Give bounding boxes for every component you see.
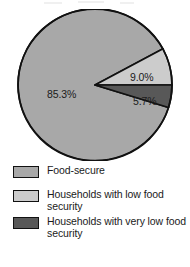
legend-swatch-low-security xyxy=(13,190,39,202)
pie-label-food-secure: 85.3% xyxy=(47,88,76,100)
legend-label-very-low-security: Households with very low food security xyxy=(47,216,190,239)
legend-item-very-low-security: Households with very low food security xyxy=(13,216,190,239)
scan-artifact xyxy=(78,1,104,3)
scan-artifact xyxy=(44,2,62,4)
legend-label-food-secure: Food-secure xyxy=(47,165,105,177)
legend-swatch-very-low-security xyxy=(13,217,39,229)
pie-label-low-security: 9.0% xyxy=(130,71,154,83)
pie-svg xyxy=(17,9,173,161)
legend-label-low-security: Households with low food security xyxy=(47,189,190,212)
chart-legend: Food-secure Households with low food sec… xyxy=(13,165,190,244)
pie-plot-area: 85.3% 9.0% 5.7% xyxy=(17,9,173,161)
legend-item-food-secure: Food-secure xyxy=(13,165,190,178)
legend-swatch-food-secure xyxy=(13,166,39,178)
scan-artifact xyxy=(120,2,134,4)
pie-label-very-low-security: 5.7% xyxy=(133,95,157,107)
pie-chart-figure: 85.3% 9.0% 5.7% Food-secure Households w… xyxy=(0,0,190,267)
legend-item-low-security: Households with low food security xyxy=(13,189,190,212)
